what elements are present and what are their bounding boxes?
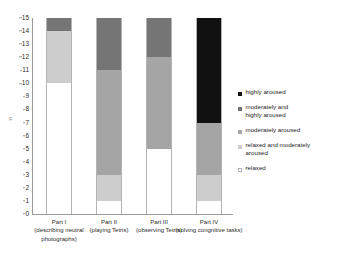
y-tick-label: 5 [25, 145, 29, 152]
legend-swatch [238, 92, 242, 96]
y-tick-label: 4 [25, 158, 29, 165]
y-tick-mark [23, 187, 26, 188]
bar-part-iii [146, 18, 172, 214]
y-tick-label: 8 [25, 106, 29, 113]
bar-segment [47, 18, 71, 31]
y-tick-label: 1 [25, 198, 29, 205]
y-tick-mark [23, 161, 26, 162]
bar-segment [197, 201, 221, 214]
y-tick-label: 6 [25, 132, 29, 139]
y-tick-mark [23, 214, 26, 215]
y-tick-label: 14 [22, 28, 29, 35]
legend-label: moderately and highly aroused [246, 103, 289, 120]
legend-item: relaxed [238, 164, 348, 172]
y-tick-mark [23, 174, 26, 175]
y-tick-mark [23, 96, 26, 97]
legend-swatch [238, 107, 242, 111]
y-tick-label: 10 [22, 80, 29, 87]
bar-segment [97, 18, 121, 70]
legend-swatch [238, 168, 242, 172]
y-tick-label: 11 [22, 67, 29, 74]
y-tick-mark [20, 70, 23, 71]
bar-part-iv [196, 18, 222, 214]
legend-item: highly aroused [238, 88, 348, 96]
y-tick-label: 9 [25, 93, 29, 100]
legend-item: moderately aroused [238, 126, 348, 134]
legend-swatch [238, 145, 242, 149]
y-tick-mark [23, 200, 26, 201]
x-axis-line [32, 214, 233, 215]
bar-segment [197, 18, 221, 123]
y-tick-mark [19, 57, 22, 58]
x-category-name: Part IV [174, 218, 244, 226]
bar-segment [97, 70, 121, 175]
y-tick-label: 2 [25, 185, 29, 192]
legend-label: relaxed [246, 164, 266, 172]
y-tick-label: 3 [25, 172, 29, 179]
legend-label: relaxed and moderately aroused [246, 141, 311, 158]
y-tick-mark [19, 18, 22, 19]
y-tick-mark [19, 31, 22, 32]
bar-segment [97, 175, 121, 201]
y-tick-mark [19, 83, 22, 84]
legend-label: highly aroused [246, 88, 286, 96]
y-tick-label: 13 [22, 41, 29, 48]
bar-segment [47, 31, 71, 83]
y-tick-label: 15 [22, 15, 29, 22]
y-tick-mark [23, 148, 26, 149]
bar-segment [197, 175, 221, 201]
x-category-description: (solving congnitive tasks) [174, 226, 244, 234]
y-tick-mark [23, 109, 26, 110]
y-axis-label: F [9, 117, 12, 123]
bar-segment [97, 201, 121, 214]
legend-item: relaxed and moderately aroused [238, 141, 348, 158]
bar-segment [147, 149, 171, 214]
y-tick-mark [23, 135, 26, 136]
y-tick-mark [23, 122, 26, 123]
y-tick-label: 7 [25, 119, 29, 126]
chart-figure: F 0123456789101112131415 Part I(describi… [0, 0, 350, 266]
y-tick-label: 0 [25, 211, 29, 218]
y-tick-mark [19, 44, 22, 45]
x-category-label: Part IV(solving congnitive tasks) [174, 218, 244, 235]
plot-area: 0123456789101112131415 [32, 18, 232, 214]
bar-segment [197, 123, 221, 175]
bar-part-ii [96, 18, 122, 214]
bar-part-i [46, 18, 72, 214]
legend-label: moderately aroused [246, 126, 301, 134]
legend-item: moderately and highly aroused [238, 103, 348, 120]
legend: highly arousedmoderately and highly arou… [238, 88, 348, 179]
y-tick-label: 12 [22, 54, 29, 61]
bar-segment [147, 18, 171, 57]
legend-swatch [238, 130, 242, 134]
bar-segment [47, 83, 71, 214]
bar-segment [147, 57, 171, 148]
